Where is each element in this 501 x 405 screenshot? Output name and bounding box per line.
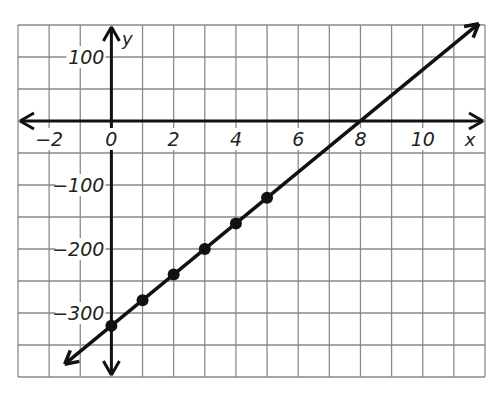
y-tick-label: −300 (52, 302, 104, 324)
data-point (105, 320, 117, 332)
x-tick-label: 2 (168, 128, 180, 150)
x-tick-label: 8 (354, 128, 366, 150)
data-point (230, 217, 242, 229)
y-tick-label: 100 (68, 46, 104, 68)
data-point (261, 192, 273, 204)
y-tick-label: −200 (52, 238, 104, 260)
x-tick-label: 6 (292, 128, 304, 150)
coordinate-plane: −20246810xy100−100−200−300 (0, 0, 501, 405)
y-axis-label: y (121, 28, 133, 49)
data-point (137, 294, 149, 306)
x-tick-label: 4 (230, 128, 242, 150)
y-tick-label: −100 (52, 174, 104, 196)
x-axis-label: x (464, 129, 476, 150)
tick-labels: −20246810xy100−100−200−300 (35, 28, 476, 324)
x-tick-label: 0 (105, 128, 117, 150)
data-point (199, 243, 211, 255)
x-tick-label: −2 (35, 128, 63, 150)
data-point (168, 269, 180, 281)
x-tick-label: 10 (411, 128, 435, 150)
